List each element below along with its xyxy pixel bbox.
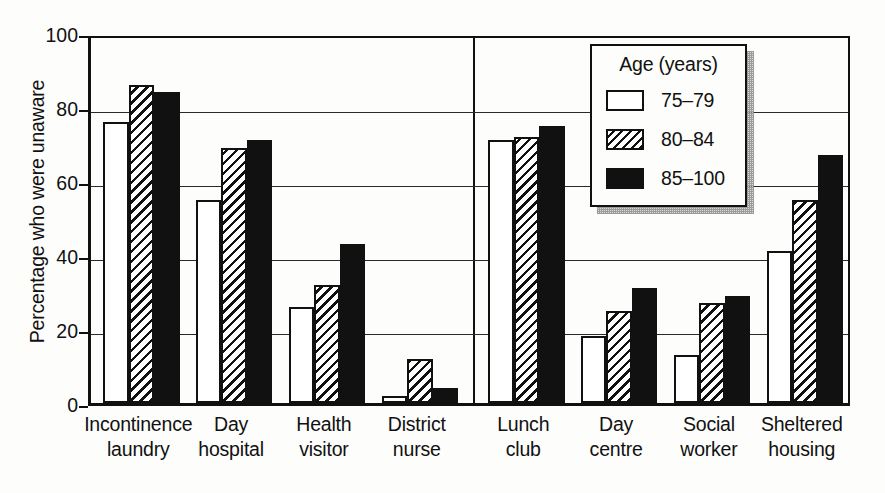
x-axis-category-labels: IncontinencelaundryDayhospitalHealthvisi… — [88, 412, 850, 482]
y-axis-tick-label: 80 — [24, 100, 78, 120]
bar — [725, 296, 751, 403]
bar — [129, 85, 155, 403]
y-axis-tick-label: 60 — [24, 174, 78, 194]
y-axis-tick — [79, 36, 88, 38]
bar — [221, 148, 247, 403]
legend-swatch — [606, 90, 644, 111]
bar — [407, 359, 433, 403]
x-axis-category-label: Shelteredhousing — [732, 412, 872, 462]
bar — [674, 355, 700, 403]
legend-label: 80–84 — [661, 128, 714, 151]
legend-title: Age (years) — [592, 53, 745, 76]
y-axis-tick-label: 20 — [24, 322, 78, 342]
bar — [818, 155, 844, 403]
bar — [196, 200, 222, 404]
y-axis-tick — [79, 332, 88, 334]
bar — [514, 137, 540, 403]
legend-item: 75–79 — [606, 87, 738, 113]
bar — [581, 336, 607, 403]
x-axis-label-line: Sheltered — [732, 412, 872, 437]
y-axis-tick-label: 100 — [24, 26, 78, 46]
y-axis-tick — [79, 184, 88, 186]
bar — [340, 244, 366, 403]
bar-chart: Percentage who were unaware 020406080100… — [0, 0, 885, 493]
bar — [767, 251, 793, 403]
bar — [314, 285, 340, 403]
legend-item: 85–100 — [606, 165, 738, 191]
bar — [488, 140, 514, 403]
legend-item: 80–84 — [606, 126, 738, 152]
bar — [632, 288, 658, 403]
y-axis-tick — [79, 258, 88, 260]
bar — [539, 126, 565, 404]
legend-swatch — [606, 129, 644, 150]
y-axis-tick — [79, 110, 88, 112]
bar — [247, 140, 273, 403]
bar — [606, 311, 632, 404]
bar — [382, 396, 408, 403]
bar — [699, 303, 725, 403]
bar — [792, 200, 818, 404]
x-axis-label-line: housing — [732, 437, 872, 462]
bar — [103, 122, 129, 403]
chart-legend: Age (years) 75–7980–8485–100 — [590, 44, 747, 207]
bar — [154, 92, 180, 403]
legend-swatch — [606, 168, 644, 189]
legend-label: 75–79 — [661, 89, 714, 112]
bar — [289, 307, 315, 403]
y-axis-tick-label: 40 — [24, 248, 78, 268]
legend-label: 85–100 — [661, 167, 725, 190]
bar — [433, 388, 459, 403]
y-axis-tick — [79, 406, 88, 408]
